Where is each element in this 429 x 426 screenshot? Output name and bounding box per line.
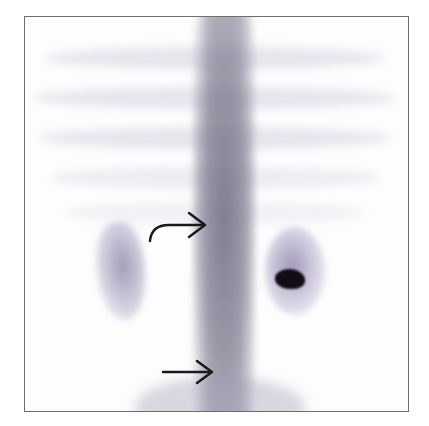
left-kidney-uptake — [92, 220, 150, 322]
scan-image-frame — [24, 16, 409, 412]
focal-hotspot — [275, 269, 305, 289]
curved-arrow-icon — [145, 207, 215, 247]
straight-arrow-icon — [161, 357, 217, 387]
